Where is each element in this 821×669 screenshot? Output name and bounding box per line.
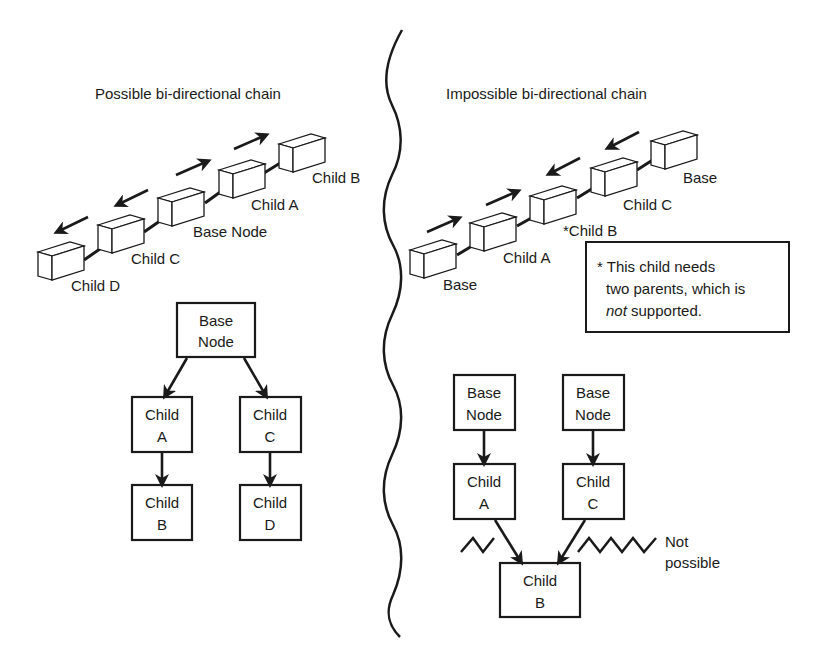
tree-node-child-d: Child D [240,485,301,540]
svg-text:Base: Base [199,312,233,329]
chain-cube-child-a [219,160,265,198]
svg-text:B: B [535,594,545,611]
arrow-left-icon [608,132,639,148]
chain-cube-child-b [279,134,325,172]
tree-node-base-left: Base Node [454,375,515,430]
tree-node-child-a: Child A [132,397,192,452]
tree-node-child-c: Child C [240,397,301,452]
svg-text:Child: Child [253,406,287,423]
tree-node-base: Base Node [177,303,255,357]
right-panel: Impossible bi-directional chain Base Chi… [410,85,789,617]
svg-text:Node: Node [466,406,502,423]
svg-text:Child: Child [467,473,501,490]
chain-cube-child-c [98,215,144,253]
tree-node-base-right: Base Node [563,375,624,430]
svg-text:Child: Child [523,572,557,589]
arrow-left-icon [117,190,148,205]
arrow-right-icon [486,191,518,205]
chain-label: Base [443,276,477,293]
right-title: Impossible bi-directional chain [446,85,647,102]
chain-label: Base [683,169,717,186]
not-possible-label: Not [665,533,689,550]
svg-text:two parents, which is: two parents, which is [606,280,745,297]
svg-text:B: B [157,516,167,533]
tree-arrow [495,520,521,562]
arrow-right-icon [176,161,208,175]
svg-text:Node: Node [198,333,234,350]
not-possible-label: possible [665,554,720,571]
chain-label: Child D [71,277,120,294]
svg-text:A: A [157,428,167,445]
svg-text:Child: Child [145,406,179,423]
chain-cube-base [410,240,456,278]
chain-cube-child-b [530,186,576,224]
svg-text:* This child needs: * This child needs [597,258,715,275]
chain-cube-child-a [470,213,516,251]
wavy-divider [384,30,402,637]
svg-text:Child: Child [576,473,610,490]
svg-text:C: C [265,428,276,445]
left-panel: Possible bi-directional chain Child D Ch… [38,85,360,540]
tree-node-child-b: Child B [500,563,580,617]
chain-cube-child-d [38,242,84,280]
tree-node-child-b: Child B [132,485,192,540]
chain-cube-base-end [651,131,697,169]
svg-text:not supported.: not supported. [606,302,702,319]
arrow-left-icon [57,217,88,232]
note-box: * This child needs two parents, which is… [586,242,789,332]
zigzag-break-icon [461,538,494,552]
chain-label: Child B [312,169,360,186]
chain-label: Base Node [193,223,267,240]
chain-label: *Child B [563,222,617,239]
arrow-right-icon [234,135,266,149]
svg-text:Base: Base [467,384,501,401]
chain-label: Child A [503,249,551,266]
chain-label: Child C [623,196,672,213]
chain-label: Child A [251,196,299,213]
chain-label: Child C [131,250,180,267]
tree-arrow [165,358,187,396]
diagram-canvas: Possible bi-directional chain Child D Ch… [0,0,821,669]
chain-cube-base-node [158,188,204,226]
svg-text:Base: Base [576,384,610,401]
svg-text:Node: Node [575,406,611,423]
tree-node-child-c: Child C [563,464,624,519]
chain-cube-child-c [591,158,637,196]
svg-text:Child: Child [145,494,179,511]
svg-text:C: C [588,495,599,512]
tree-arrow [244,358,266,396]
left-title: Possible bi-directional chain [95,85,281,102]
tree-node-child-a: Child A [454,464,515,519]
svg-text:D: D [265,516,276,533]
zigzag-break-icon [578,538,656,552]
tree-arrow [559,520,585,562]
arrow-left-icon [549,158,580,174]
svg-text:A: A [479,495,489,512]
arrow-right-icon [427,218,459,232]
svg-text:Child: Child [253,494,287,511]
